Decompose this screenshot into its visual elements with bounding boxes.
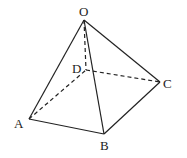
edge-OC <box>84 20 160 82</box>
label-C: C <box>163 76 172 91</box>
label-A: A <box>14 116 24 131</box>
edge-AD <box>29 70 86 119</box>
edge-DC <box>86 70 160 82</box>
edge-OB <box>84 20 104 134</box>
label-O: O <box>79 4 88 19</box>
edge-BC <box>104 82 160 134</box>
pyramid-figure: O D C A B <box>0 0 187 158</box>
label-B: B <box>100 138 109 153</box>
edge-AB <box>29 119 104 134</box>
label-D: D <box>72 61 81 76</box>
pyramid-diagram: O D C A B <box>0 0 187 158</box>
